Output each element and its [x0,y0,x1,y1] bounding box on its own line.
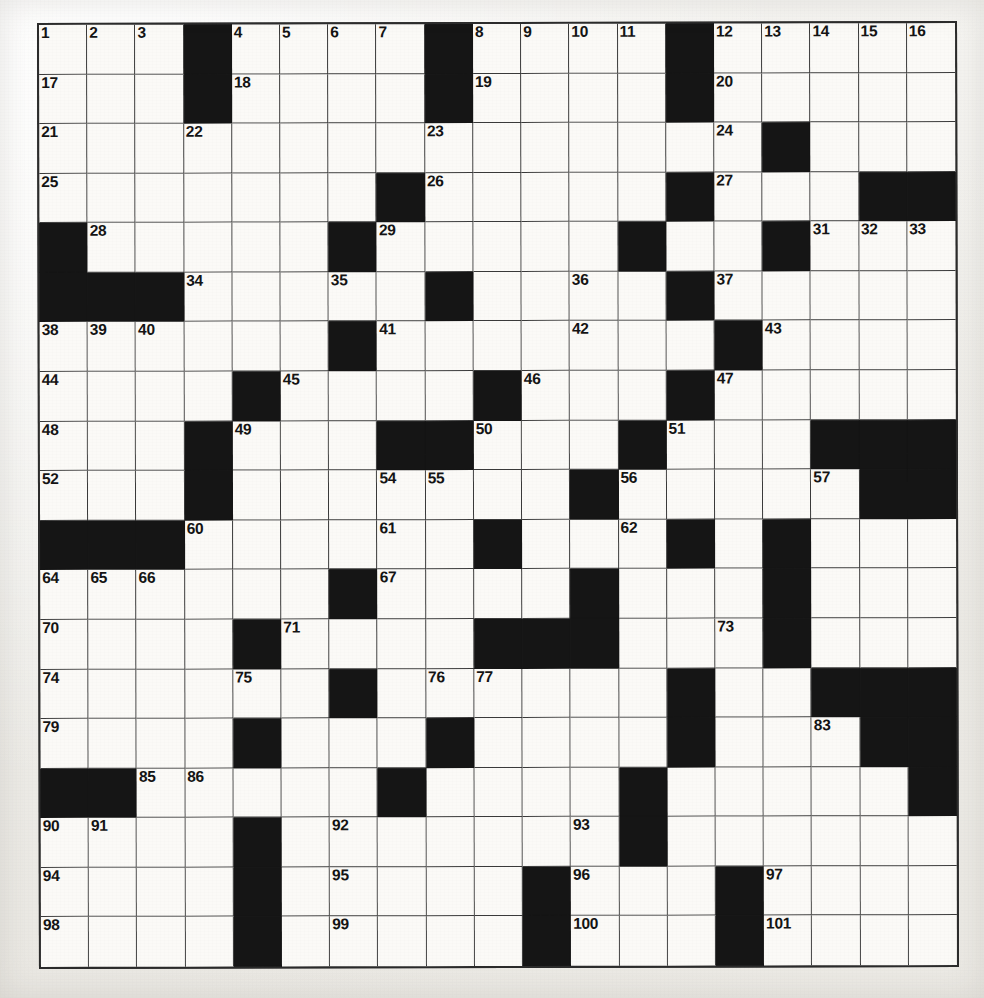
letter-cell[interactable] [570,520,618,570]
letter-cell[interactable]: 6 [328,24,376,74]
letter-cell[interactable] [812,767,860,817]
letter-cell[interactable] [619,569,667,619]
letter-cell[interactable] [908,519,956,569]
letter-cell[interactable] [282,768,330,818]
letter-cell[interactable] [811,321,859,371]
letter-cell[interactable] [281,520,329,570]
letter-cell[interactable]: 95 [330,867,378,917]
letter-cell[interactable] [425,322,473,372]
letter-cell[interactable] [136,173,184,223]
letter-cell[interactable] [570,123,618,173]
letter-cell[interactable] [810,73,858,123]
letter-cell[interactable] [618,371,666,421]
letter-cell[interactable] [377,74,425,124]
letter-cell[interactable] [233,471,281,521]
letter-cell[interactable]: 31 [811,222,859,272]
letter-cell[interactable] [618,272,666,322]
letter-cell[interactable]: 100 [571,916,619,966]
letter-cell[interactable] [907,271,955,321]
letter-cell[interactable]: 12 [714,23,762,73]
letter-cell[interactable]: 66 [137,570,185,620]
letter-cell[interactable] [909,866,957,916]
letter-cell[interactable] [329,421,377,471]
letter-cell[interactable]: 73 [715,618,763,668]
letter-cell[interactable] [715,569,763,619]
letter-cell[interactable] [136,124,184,174]
letter-cell[interactable] [668,916,716,966]
letter-cell[interactable] [232,272,280,322]
letter-cell[interactable]: 19 [473,74,521,124]
letter-cell[interactable] [667,618,715,668]
letter-cell[interactable] [473,123,521,173]
letter-cell[interactable]: 49 [233,421,281,471]
letter-cell[interactable] [136,471,184,521]
letter-cell[interactable] [571,718,619,768]
letter-cell[interactable]: 56 [618,470,666,520]
letter-cell[interactable] [570,420,618,470]
letter-cell[interactable] [521,123,569,173]
letter-cell[interactable] [232,223,280,273]
letter-cell[interactable] [523,817,571,867]
letter-cell[interactable] [619,668,667,718]
letter-cell[interactable] [280,223,328,273]
letter-cell[interactable]: 20 [714,73,762,123]
letter-cell[interactable] [377,371,425,421]
letter-cell[interactable] [137,620,185,670]
letter-cell[interactable]: 22 [184,124,232,174]
letter-cell[interactable] [521,73,569,123]
letter-cell[interactable] [233,520,281,570]
letter-cell[interactable] [666,123,714,173]
letter-cell[interactable]: 61 [378,520,426,570]
letter-cell[interactable] [763,370,811,420]
letter-cell[interactable] [908,618,956,668]
letter-cell[interactable]: 42 [570,321,618,371]
letter-cell[interactable] [523,718,571,768]
letter-cell[interactable]: 57 [811,469,859,519]
letter-cell[interactable] [281,669,329,719]
letter-cell[interactable]: 60 [185,520,233,570]
letter-cell[interactable] [522,272,570,322]
letter-cell[interactable] [811,271,859,321]
letter-cell[interactable] [618,73,666,123]
letter-cell[interactable] [137,719,185,769]
letter-cell[interactable] [280,74,328,124]
letter-cell[interactable]: 1 [39,25,87,75]
letter-cell[interactable] [762,172,810,222]
letter-cell[interactable] [859,73,907,123]
letter-cell[interactable]: 3 [135,25,183,75]
letter-cell[interactable] [715,519,763,569]
letter-cell[interactable] [475,916,523,966]
letter-cell[interactable]: 26 [425,173,473,223]
letter-cell[interactable]: 5 [280,24,328,74]
letter-cell[interactable]: 55 [426,470,474,520]
letter-cell[interactable] [330,718,378,768]
letter-cell[interactable] [907,321,955,371]
letter-cell[interactable] [474,768,522,818]
letter-cell[interactable] [859,370,907,420]
letter-cell[interactable] [232,322,280,372]
letter-cell[interactable] [473,222,521,272]
letter-cell[interactable] [667,569,715,619]
letter-cell[interactable] [377,123,425,173]
letter-cell[interactable] [281,272,329,322]
letter-cell[interactable] [186,917,234,967]
letter-cell[interactable]: 75 [233,669,281,719]
letter-cell[interactable] [619,619,667,669]
letter-cell[interactable] [88,173,136,223]
letter-cell[interactable]: 9 [521,24,569,74]
letter-cell[interactable] [474,569,522,619]
letter-cell[interactable] [619,916,667,966]
letter-cell[interactable] [763,271,811,321]
letter-cell[interactable]: 37 [714,271,762,321]
letter-cell[interactable] [282,818,330,868]
letter-cell[interactable]: 98 [41,917,89,967]
letter-cell[interactable] [812,816,860,866]
letter-cell[interactable] [185,570,233,620]
letter-cell[interactable]: 64 [40,570,88,620]
letter-cell[interactable] [184,173,232,223]
letter-cell[interactable] [280,173,328,223]
letter-cell[interactable]: 2 [87,25,135,75]
letter-cell[interactable] [136,372,184,422]
letter-cell[interactable] [328,123,376,173]
letter-cell[interactable] [281,570,329,620]
